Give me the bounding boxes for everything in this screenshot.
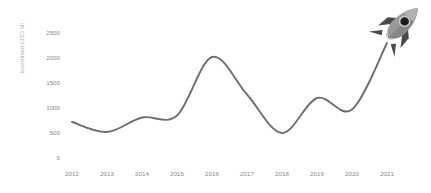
x-tick-label-2014: 2014 xyxy=(135,170,149,177)
y-axis-title: Investment (USD M) xyxy=(19,23,25,74)
y-tick-label-500: 500 xyxy=(50,129,61,136)
rocket-icon xyxy=(369,0,430,57)
x-tick-label-2021: 2021 xyxy=(380,170,394,177)
y-tick-label-1500: 1500 xyxy=(46,79,60,86)
x-tick-label-2020: 2020 xyxy=(345,170,359,177)
y-tick-label-2000: 2000 xyxy=(46,54,60,61)
chart-container: Investment (USD M) 2500 2000 1500 1000 5… xyxy=(0,0,431,193)
x-tick-label-2018: 2018 xyxy=(275,170,289,177)
x-tick-label-2016: 2016 xyxy=(205,170,219,177)
line-chart: Investment (USD M) 2500 2000 1500 1000 5… xyxy=(0,0,431,193)
x-tick-label-2017: 2017 xyxy=(240,170,254,177)
y-tick-label-0: 0 xyxy=(57,154,61,161)
x-tick-label-2019: 2019 xyxy=(310,170,324,177)
data-series-line xyxy=(72,43,387,133)
y-tick-label-2500: 2500 xyxy=(46,29,60,36)
x-tick-label-2015: 2015 xyxy=(170,170,184,177)
y-tick-label-1000: 1000 xyxy=(46,104,60,111)
x-tick-label-2013: 2013 xyxy=(100,170,114,177)
x-tick-label-2012: 2012 xyxy=(65,170,79,177)
